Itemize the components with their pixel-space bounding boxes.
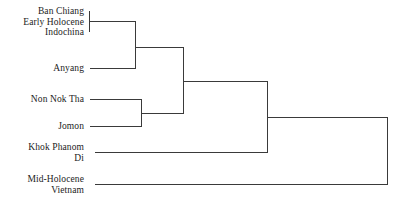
taxon-label-mid-holocene-vietnam: Mid-Holocene Vietnam [0,174,84,195]
taxon-label-anyang: Anyang [0,63,84,74]
taxon-label-ban-chiang-early-holocene-indochina: Ban Chiang Early Holocene Indochina [0,6,84,38]
taxon-label-khok-phanom-di: Khok Phanom Di [0,142,84,163]
taxon-label-jomon: Jomon [0,121,84,132]
dendrogram-figure: Ban Chiang Early Holocene Indochina Anya… [0,0,399,200]
taxon-label-non-nok-tha: Non Nok Tha [0,94,84,105]
